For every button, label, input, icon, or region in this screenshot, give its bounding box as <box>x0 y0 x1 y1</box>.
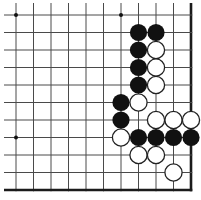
black-stone <box>112 111 129 128</box>
black-stone <box>112 94 129 111</box>
white-stone <box>147 111 164 128</box>
white-stone <box>147 59 164 76</box>
black-stone <box>147 24 164 41</box>
black-stone <box>147 129 164 146</box>
white-stone <box>165 164 182 181</box>
black-stone <box>182 129 199 146</box>
white-stone <box>112 129 129 146</box>
black-stone <box>130 59 147 76</box>
black-stone <box>165 129 182 146</box>
star-point <box>119 13 123 17</box>
black-stone <box>130 129 147 146</box>
star-point <box>14 136 18 140</box>
black-stone <box>130 41 147 58</box>
star-point <box>14 13 18 17</box>
white-stone <box>147 146 164 163</box>
white-stone <box>147 76 164 93</box>
white-stone <box>165 111 182 128</box>
go-board[interactable] <box>0 0 201 200</box>
black-stone <box>130 24 147 41</box>
white-stone <box>130 146 147 163</box>
white-stone <box>182 111 199 128</box>
black-stone <box>130 76 147 93</box>
go-diagram <box>0 0 201 200</box>
white-stone <box>147 41 164 58</box>
white-stone <box>130 94 147 111</box>
